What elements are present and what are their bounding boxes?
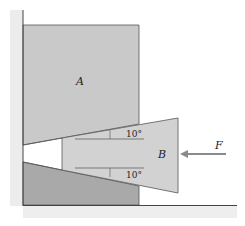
force-arrow-head	[180, 150, 188, 158]
floor-shade	[23, 205, 237, 218]
wall-shade	[10, 10, 23, 206]
angle-label-top: 10°	[126, 129, 142, 139]
wedge-b-label: B	[157, 148, 166, 161]
block-a-label: A	[75, 75, 84, 88]
wedge-diagram: A B F 10° 10°	[0, 0, 245, 226]
force-label: F	[214, 139, 223, 152]
angle-label-bottom: 10°	[126, 170, 142, 180]
